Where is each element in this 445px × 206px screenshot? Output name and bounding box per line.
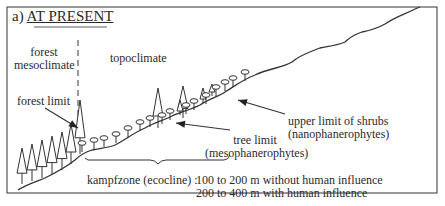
conifer-tree-icon xyxy=(57,132,67,159)
conifer-tree-icon xyxy=(75,100,85,138)
shrub-icon xyxy=(202,93,210,98)
shrub-icon xyxy=(158,113,166,118)
shrub-icon xyxy=(241,70,249,75)
forest-mesoclimate-line2: mesoclimate xyxy=(14,59,74,72)
shrub-icon xyxy=(100,136,108,141)
conifer-tree-icon xyxy=(47,136,57,163)
shrub-icon xyxy=(229,76,237,81)
shrub-icon xyxy=(146,116,154,121)
shrub-icon xyxy=(90,138,98,143)
conifer-tree-icon xyxy=(37,140,47,167)
forest-limit-label: forest limit xyxy=(17,95,70,108)
panel-title: a) AT PRESENT xyxy=(12,10,113,23)
conifer-tree-icon xyxy=(27,144,37,170)
tree-limit-arrow-head xyxy=(176,121,185,128)
shrub-icon xyxy=(182,103,190,108)
topoclimate-label: topoclimate xyxy=(110,52,167,65)
forest-mesoclimate-label: forest mesoclimate xyxy=(14,46,74,72)
shrub-icon xyxy=(221,80,229,85)
panel-label: a) xyxy=(12,8,24,24)
shrub-icon xyxy=(136,120,144,125)
shrub-icon xyxy=(78,141,86,146)
tree-limit-label: tree limit (mesophanerophytes) xyxy=(205,134,305,160)
conifer-tree-icon xyxy=(17,148,27,173)
shrub-icon xyxy=(212,85,220,90)
shrub-icon xyxy=(166,109,174,114)
shrub-icon xyxy=(190,99,198,104)
shrub-icon xyxy=(112,132,120,137)
panel-title-text: AT PRESENT xyxy=(27,8,114,24)
kampfzone-label: kampfzone (ecocline) : xyxy=(87,174,198,187)
tree-limit-line2: (mesophanerophytes) xyxy=(205,147,305,160)
shrub-icon xyxy=(124,126,132,131)
upper-limit-arrow-head xyxy=(238,99,248,106)
conifer-tree-icon xyxy=(153,88,163,116)
range-with-human-label: 200 to 400 m with human influence xyxy=(196,187,367,200)
